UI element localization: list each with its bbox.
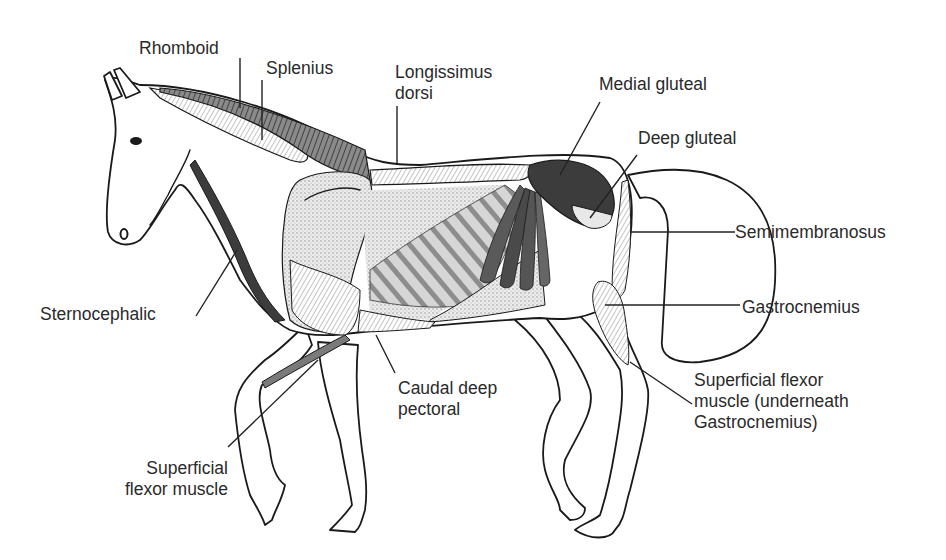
label-splenius: Splenius bbox=[266, 58, 333, 79]
label-gastrocnemius: Gastrocnemius bbox=[742, 297, 860, 318]
eye-icon bbox=[130, 137, 142, 145]
label-longissimus-dorsi: Longissimus dorsi bbox=[395, 62, 492, 104]
tail bbox=[628, 170, 775, 362]
hind-leg-far bbox=[515, 310, 591, 520]
label-medial-gluteal: Medial gluteal bbox=[599, 74, 707, 95]
label-sternocephalic: Sternocephalic bbox=[40, 304, 156, 325]
horse-muscle-diagram: Rhomboid Splenius Longissimus dorsi Medi… bbox=[0, 0, 946, 560]
label-semimembranosus: Semimembranosus bbox=[735, 222, 886, 243]
label-superficial-flexor-hind: Superficial flexor muscle (underneath Ga… bbox=[694, 370, 849, 433]
leader-caudal-deep-pectoral bbox=[376, 335, 395, 373]
leader-sternocephalic bbox=[196, 250, 237, 316]
label-caudal-deep-pectoral: Caudal deep pectoral bbox=[398, 378, 497, 420]
label-superficial-flexor-fore: Superficial flexor muscle bbox=[96, 458, 228, 500]
nostril-icon bbox=[121, 229, 128, 239]
fore-leg-far bbox=[235, 325, 312, 525]
label-deep-gluteal: Deep gluteal bbox=[638, 128, 736, 149]
fore-leg-near bbox=[318, 342, 366, 532]
label-rhomboid: Rhomboid bbox=[139, 38, 219, 59]
